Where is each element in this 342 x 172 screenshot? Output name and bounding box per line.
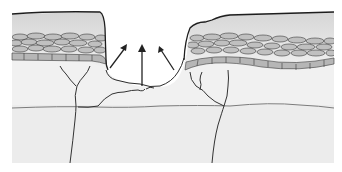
wound-diagram: [0, 0, 342, 172]
left-epidermis-cells: [10, 33, 107, 53]
wound-cross-section-svg: [0, 0, 342, 172]
right-skin-flap: [184, 12, 336, 70]
